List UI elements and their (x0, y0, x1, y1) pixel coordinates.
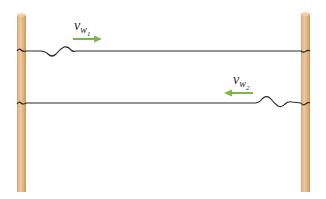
velocity-label-1: vw1 (74, 19, 90, 33)
label-subscript: w2 (239, 78, 249, 89)
label-subscript: w1 (80, 24, 90, 35)
bottom-rope (17, 97, 310, 107)
velocity-label-2: vw2 (233, 73, 249, 87)
top-rope (17, 47, 310, 56)
wave-diagram (0, 0, 326, 199)
